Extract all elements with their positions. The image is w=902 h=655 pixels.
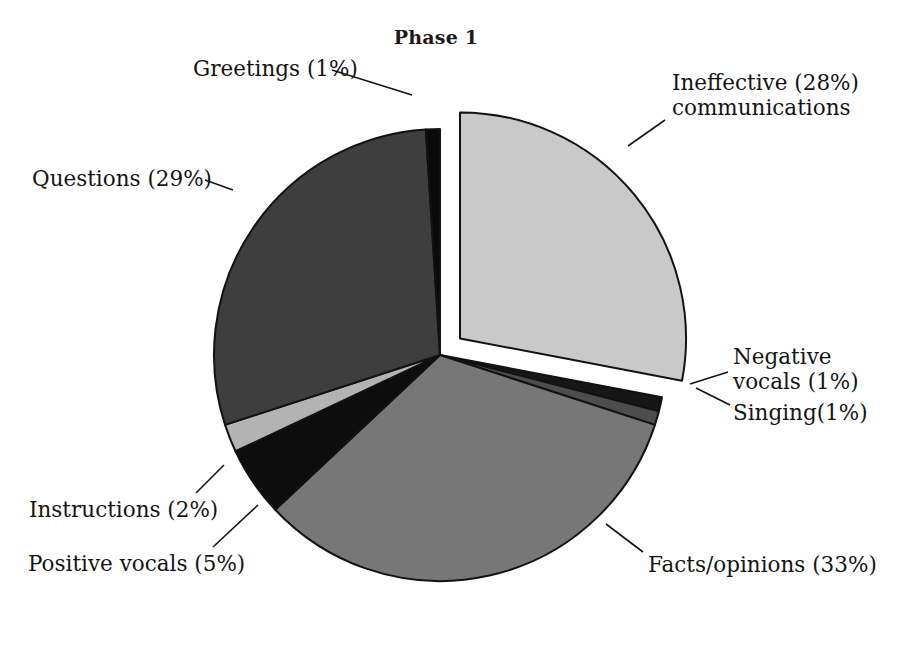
slice-label-ineffective-line1: Ineffective (28%) [672,70,859,95]
leader-line-negative-vocals [690,372,728,384]
slice-label-greetings: Greetings (1%) [193,56,358,81]
slice-label-negative-vocals: Negative vocals (1%) [733,344,859,395]
pie-slice-ineffective-communications [460,112,686,380]
leader-line-instructions [196,465,224,493]
leader-line-ineffective [628,120,665,146]
leader-line-positive-vocals [213,505,258,547]
pie-slice-group [214,112,686,581]
slice-label-questions: Questions (29%) [32,166,212,191]
slice-label-positive-vocals: Positive vocals (5%) [28,551,245,576]
slice-label-negative-vocals-line1: Negative [733,344,859,369]
pie-chart: Phase 1 Ineffective (28%) communications… [0,0,902,655]
slice-label-negative-vocals-line2: vocals (1%) [733,369,859,394]
slice-label-facts-opinions: Facts/opinions (33%) [648,552,877,577]
slice-label-singing: Singing(1%) [733,400,868,425]
slice-label-ineffective-line2: communications [672,95,859,120]
slice-label-ineffective: Ineffective (28%) communications [672,70,859,121]
slice-label-instructions: Instructions (2%) [29,497,218,522]
leader-line-singing [696,388,730,405]
leader-line-facts-opinions [606,524,643,552]
